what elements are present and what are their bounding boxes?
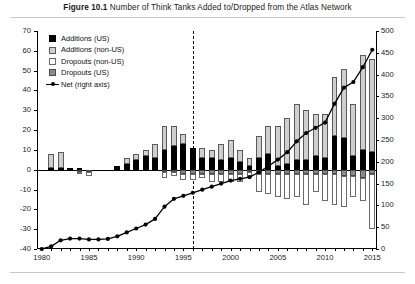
net-data-point-marker [40,247,44,251]
net-data-point-marker [238,177,242,181]
net-line-series [37,31,377,249]
net-data-point-marker [370,48,374,52]
x-axis-tick-label: 2005 [261,253,295,262]
net-data-point-marker [181,194,185,198]
net-data-point-marker [106,237,110,241]
net-line-path [42,50,373,249]
net-data-point-marker [96,237,100,241]
figure-caption: Number of Think Tanks Added to/Dropped f… [110,3,352,12]
x-axis-tick-label: 1990 [119,253,153,262]
net-data-point-marker [332,102,336,106]
net-data-point-marker [68,236,72,240]
net-data-point-marker [77,236,81,240]
net-data-point-marker [247,175,251,179]
net-data-point-marker [295,139,299,143]
net-data-point-marker [125,230,129,234]
right-axis-tick [376,249,379,250]
right-axis-tick-label: 250 [381,135,394,144]
net-data-point-marker [87,237,91,241]
net-data-point-marker [162,205,166,209]
net-data-point-marker [59,238,63,242]
left-axis-tick [34,249,37,250]
net-data-point-marker [191,191,195,195]
net-data-point-marker [257,170,261,174]
right-axis-tick-label: 0 [381,244,385,253]
left-axis-tick-label: 0 [5,165,31,174]
net-data-point-marker [49,244,53,248]
left-axis-tick-label: -40 [5,244,31,253]
left-axis-tick-label: -20 [5,204,31,213]
x-axis-tick-label: 1995 [166,253,200,262]
right-axis-tick-label: 450 [381,48,394,57]
right-axis-tick-label: 150 [381,179,394,188]
net-data-point-marker [229,178,233,182]
net-data-point-marker [285,150,289,154]
net-data-point-marker [134,226,138,230]
net-data-point-marker [115,234,119,238]
net-data-point-marker [323,120,327,124]
left-axis-tick-label: -10 [5,185,31,194]
right-axis-tick-label: 500 [381,26,394,35]
right-axis-tick-label: 350 [381,91,394,100]
right-axis-tick-label: 50 [381,222,389,231]
net-data-point-marker [172,197,176,201]
left-axis-tick-label: 10 [5,145,31,154]
x-axis-tick-label: 1985 [72,253,106,262]
figure-number: Figure 10.1 [63,3,107,12]
right-axis-tick-label: 200 [381,157,394,166]
net-data-point-marker [144,222,148,226]
net-data-point-marker [361,65,365,69]
x-axis-tick-label: 2000 [214,253,248,262]
figure-container: Figure 10.1 Number of Think Tanks Added … [0,0,415,284]
net-data-point-marker [276,158,280,162]
left-axis-tick-label: 30 [5,105,31,114]
net-data-point-marker [314,126,318,130]
left-axis-tick-label: 20 [5,125,31,134]
right-axis-tick-label: 300 [381,113,394,122]
bottom-divider [10,272,405,273]
net-data-point-marker [351,80,355,84]
left-axis-tick-label: 50 [5,66,31,75]
x-axis-tick-label: 2010 [308,253,342,262]
net-data-point-marker [219,182,223,186]
net-data-point-marker [210,185,214,189]
left-axis-tick-label: -30 [5,224,31,233]
net-data-point-marker [153,217,157,221]
right-axis-tick-label: 400 [381,70,394,79]
net-data-point-marker [200,188,204,192]
net-data-point-marker [342,86,346,90]
x-axis-tick-label: 2015 [355,253,389,262]
net-data-point-marker [304,131,308,135]
right-axis-tick-label: 100 [381,200,394,209]
left-axis-tick-label: 40 [5,85,31,94]
net-data-point-marker [266,164,270,168]
left-axis-tick-label: 70 [5,26,31,35]
left-axis-tick-label: 60 [5,46,31,55]
plot-area: 706050403020100-10-20-30-40 500450400350… [37,31,377,249]
title-divider [10,17,405,18]
x-axis-tick-label: 1980 [25,253,59,262]
figure-title: Figure 10.1 Number of Think Tanks Added … [0,3,415,12]
